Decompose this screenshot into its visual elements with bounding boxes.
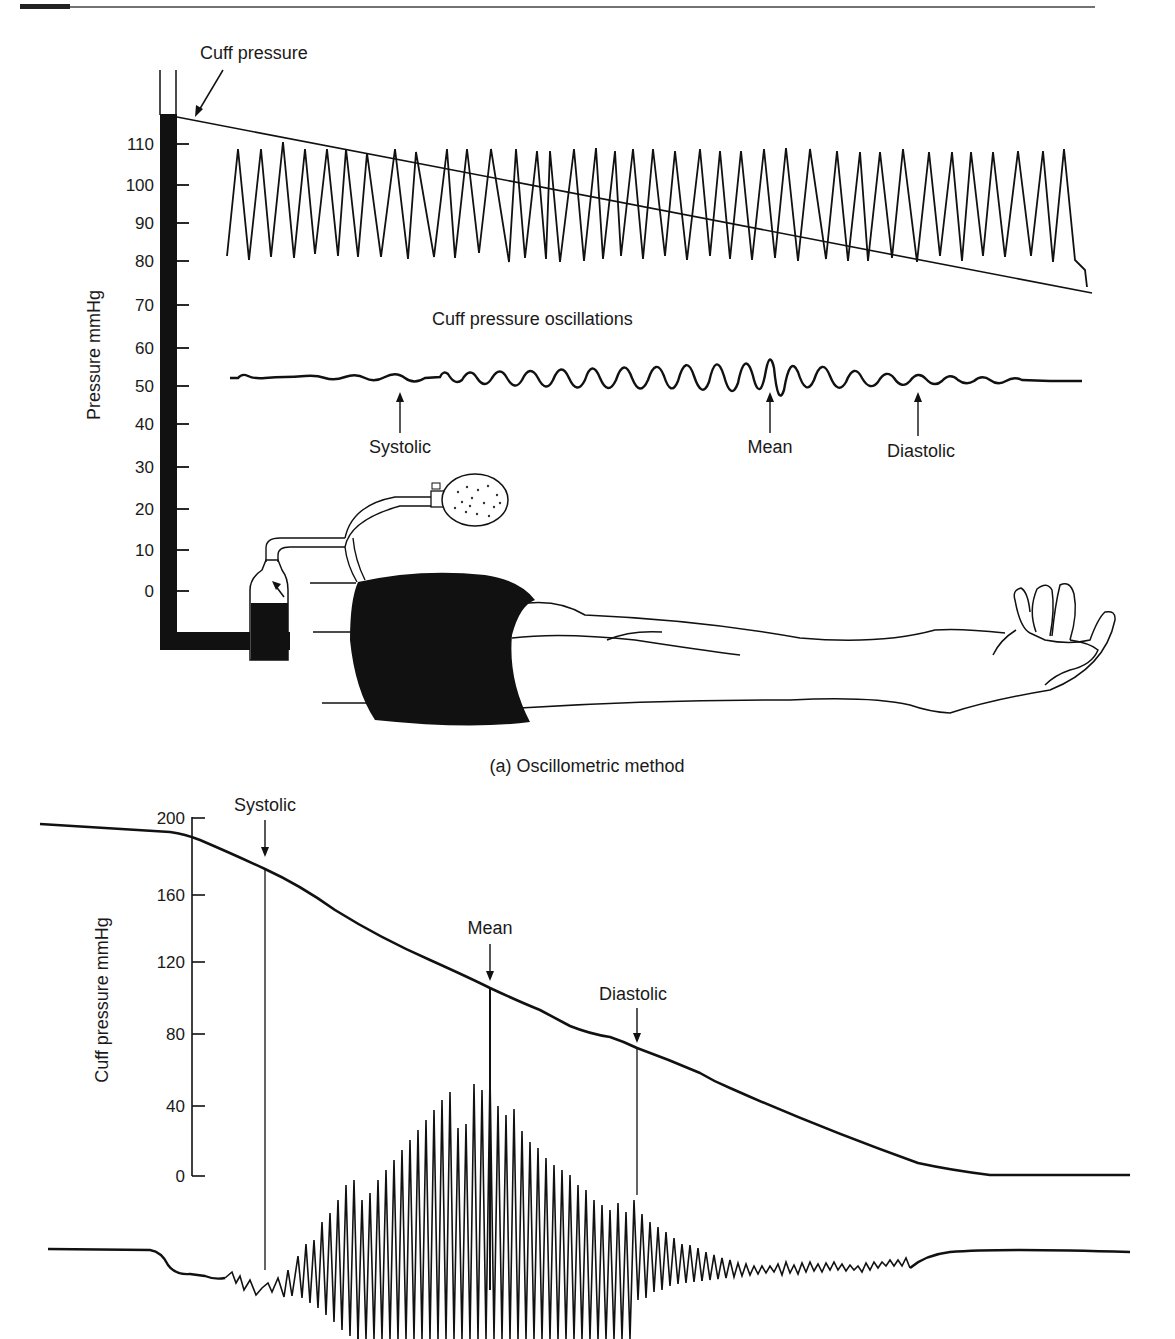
cuff-pressure-arrow-icon bbox=[195, 70, 223, 117]
tick-label: 50 bbox=[135, 377, 154, 396]
panel-b: 200 160 120 80 40 0 Cuff pressure mmHg S… bbox=[40, 795, 1130, 1339]
tick-label: 40 bbox=[135, 415, 154, 434]
mean-label: Mean bbox=[467, 918, 512, 938]
tick-label: 40 bbox=[166, 1097, 185, 1116]
tick-label: 120 bbox=[157, 953, 185, 972]
tick-label: 60 bbox=[135, 339, 154, 358]
panel-b-y-axis bbox=[192, 817, 205, 1176]
tick-label: 0 bbox=[176, 1167, 185, 1186]
mean-marker-a: Mean bbox=[747, 392, 792, 457]
panel-b-y-axis-label: Cuff pressure mmHg bbox=[92, 917, 112, 1083]
tick-label: 80 bbox=[166, 1025, 185, 1044]
tick-label: 90 bbox=[135, 214, 154, 233]
panel-a-caption: (a) Oscillometric method bbox=[489, 756, 684, 776]
systolic-marker-b: Systolic bbox=[234, 795, 296, 1270]
arrow-down-icon bbox=[633, 1033, 641, 1043]
tick-label: 30 bbox=[135, 458, 154, 477]
cuff-pressure-curve bbox=[40, 824, 1130, 1175]
cuff-pressure-ramp bbox=[177, 117, 1092, 293]
diastolic-marker-b: Diastolic bbox=[599, 984, 667, 1195]
arrow-down-icon bbox=[261, 847, 269, 857]
arterial-sawtooth bbox=[227, 142, 1087, 287]
tick-label: 20 bbox=[135, 500, 154, 519]
blood-pressure-cuff bbox=[350, 573, 535, 726]
diastolic-marker-a: Diastolic bbox=[887, 392, 955, 461]
systolic-label: Systolic bbox=[369, 437, 431, 457]
tick-label: 100 bbox=[126, 176, 154, 195]
diastolic-label: Diastolic bbox=[599, 984, 667, 1004]
arrow-up-icon bbox=[766, 392, 774, 402]
arrow-up-icon bbox=[396, 392, 404, 402]
tick-label: 110 bbox=[127, 135, 154, 154]
inflation-tubing bbox=[266, 497, 433, 582]
inflation-bulb-icon bbox=[431, 474, 508, 526]
oscillations-label: Cuff pressure oscillations bbox=[432, 309, 633, 329]
panel-a-y-axis-label: Pressure mmHg bbox=[84, 290, 104, 420]
diastolic-label: Diastolic bbox=[887, 441, 955, 461]
tick-label: 70 bbox=[135, 296, 154, 315]
tick-label: 10 bbox=[135, 541, 154, 560]
cuff-oscillation-waveform bbox=[230, 359, 1082, 395]
figure-canvas: 110 100 90 80 70 60 50 40 30 20 10 0 Pre… bbox=[0, 0, 1175, 1339]
tick-label: 160 bbox=[157, 886, 185, 905]
panel-a-y-ticks: 110 100 90 80 70 60 50 40 30 20 10 0 bbox=[126, 135, 154, 601]
panel-a: 110 100 90 80 70 60 50 40 30 20 10 0 Pre… bbox=[84, 43, 1115, 776]
header-rule bbox=[20, 4, 1095, 9]
systolic-label: Systolic bbox=[234, 795, 296, 815]
tick-label: 200 bbox=[157, 809, 185, 828]
mean-label: Mean bbox=[747, 437, 792, 457]
systolic-marker-a: Systolic bbox=[369, 392, 431, 457]
arrow-up-icon bbox=[914, 392, 922, 402]
tick-label: 80 bbox=[135, 252, 154, 271]
arrow-down-icon bbox=[486, 971, 494, 981]
oscillation-spike-train bbox=[48, 1075, 1130, 1339]
tick-label: 0 bbox=[145, 582, 154, 601]
pressure-bottle bbox=[250, 560, 288, 660]
panel-b-y-ticks: 200 160 120 80 40 0 bbox=[157, 809, 185, 1186]
cuff-pressure-label: Cuff pressure bbox=[200, 43, 308, 63]
